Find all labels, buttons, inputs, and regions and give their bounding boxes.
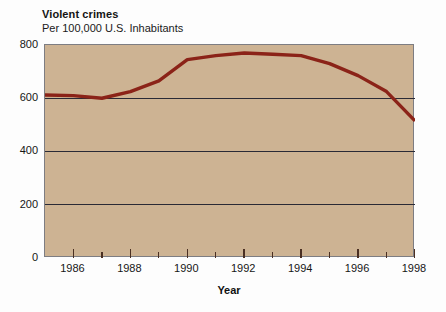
y-tick-label-600: 600 — [4, 92, 38, 102]
x-tick-label-1992: 1992 — [221, 262, 265, 274]
series-line-0 — [45, 53, 415, 121]
chart-title-block: Violent crimes Per 100,000 U.S. Inhabita… — [42, 8, 382, 35]
x-tick-label-1994: 1994 — [278, 262, 322, 274]
y-tick-label-0: 0 — [4, 252, 38, 262]
chart-figure: Violent crimes Per 100,000 U.S. Inhabita… — [0, 0, 446, 312]
plot-area — [44, 44, 414, 257]
chart-plot-canvas — [45, 45, 415, 258]
data-series — [45, 53, 415, 121]
x-tick-label-1990: 1990 — [164, 262, 208, 274]
page-title: Violent crimes — [42, 8, 382, 21]
x-tick-label-1996: 1996 — [335, 262, 379, 274]
x-axis-tick-labels: 1986 1988 1990 1992 1994 1996 1998 — [44, 262, 414, 278]
x-axis-ticks — [73, 249, 415, 258]
chart-subtitle: Per 100,000 U.S. Inhabitants — [42, 21, 382, 35]
x-axis-title: Year — [44, 284, 414, 296]
y-tick-label-800: 800 — [4, 39, 38, 49]
y-tick-label-400: 400 — [4, 145, 38, 155]
gridlines — [45, 98, 415, 205]
y-tick-label-200: 200 — [4, 199, 38, 209]
x-tick-label-1998: 1998 — [392, 262, 436, 274]
x-tick-label-1988: 1988 — [107, 262, 151, 274]
x-tick-label-1986: 1986 — [50, 262, 94, 274]
y-axis-tick-labels: 800 600 400 200 0 — [0, 44, 38, 257]
